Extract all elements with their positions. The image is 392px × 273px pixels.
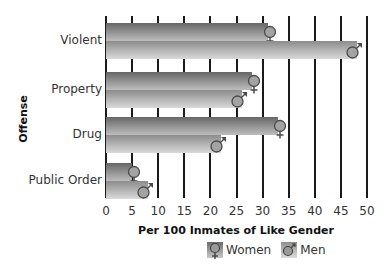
- category-label: Drug: [73, 127, 102, 141]
- category-label: Violent: [60, 33, 102, 47]
- category-label: Property: [51, 82, 102, 96]
- x-tick-label: 15: [177, 204, 192, 218]
- y-axis-title: Offense: [17, 95, 30, 143]
- bar-women: [106, 23, 268, 41]
- x-axis-title: Per 100 Inmates of Like Gender: [138, 224, 334, 237]
- male-symbol-icon: [209, 136, 227, 158]
- x-tick-label: 30: [255, 204, 270, 218]
- bar-chart: Offense ViolentPropertyDrugPublic Order …: [0, 0, 392, 273]
- male-symbol-icon: [281, 242, 297, 258]
- gridline: [366, 16, 368, 198]
- x-tick-label: 40: [307, 204, 322, 218]
- male-symbol-icon: [136, 182, 154, 204]
- female-symbol-icon: [247, 74, 261, 98]
- legend-item-women: Women: [207, 242, 271, 258]
- x-tick-label: 10: [151, 204, 166, 218]
- x-tick-label: 25: [229, 204, 244, 218]
- x-tick-label: 45: [333, 204, 348, 218]
- x-tick-label: 35: [281, 204, 296, 218]
- bar-women: [106, 72, 252, 90]
- female-symbol-icon: [273, 119, 287, 143]
- male-symbol-icon: [230, 91, 248, 113]
- bar-men: [106, 90, 242, 108]
- legend-item-men: Men: [281, 242, 325, 258]
- category-label: Public Order: [29, 173, 102, 187]
- legend: Women Men: [207, 242, 326, 258]
- x-tick-label: 50: [359, 204, 374, 218]
- legend-label-women: Women: [226, 243, 271, 257]
- x-tick-label: 0: [102, 204, 110, 218]
- bar-men: [106, 135, 221, 153]
- bar-men: [106, 41, 357, 59]
- legend-label-men: Men: [300, 243, 325, 257]
- bar-women: [106, 117, 278, 135]
- female-symbol-icon: [207, 242, 223, 258]
- x-tick-label: 20: [203, 204, 218, 218]
- male-symbol-icon: [345, 42, 363, 64]
- x-tick-label: 5: [128, 204, 136, 218]
